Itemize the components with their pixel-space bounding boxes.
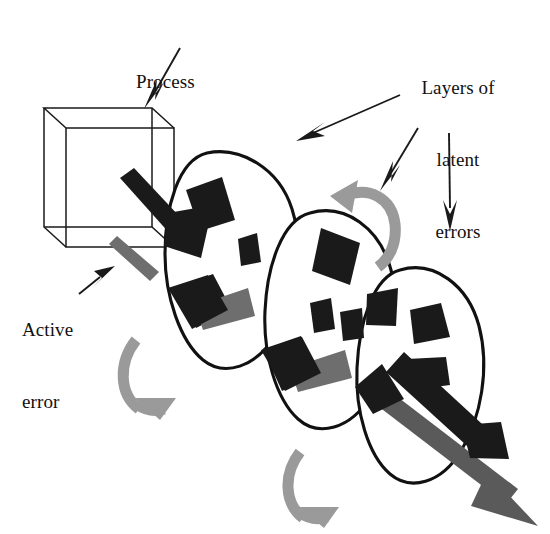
label-process: Process [136,22,195,142]
label-layers-of-latent-errors: Layers of latent errors [398,28,518,292]
active-error-arrow-grey-1 [109,236,159,281]
latent-error-hole [310,298,335,333]
pointer-arrow-layers-1 [296,95,400,141]
latent-error-hole [366,288,398,326]
label-active-line-1: Active [22,318,73,342]
label-layers-line-1: Layers of [398,76,518,100]
figure-canvas: Process Layers of latent errors Active e… [0,0,550,534]
label-active-line-2: error [22,390,73,414]
latent-error-hole [238,233,261,266]
label-active-error: Active error [22,270,73,462]
rotation-arrow-layer-3 [288,452,339,528]
label-layers-line-2: latent [398,148,518,172]
label-process-line: Process [136,70,195,94]
latent-error-hole [340,308,364,341]
rotation-arrow-layer-1 [123,340,176,420]
pointer-arrow-active-error [79,266,115,294]
label-layers-line-3: errors [398,220,518,244]
